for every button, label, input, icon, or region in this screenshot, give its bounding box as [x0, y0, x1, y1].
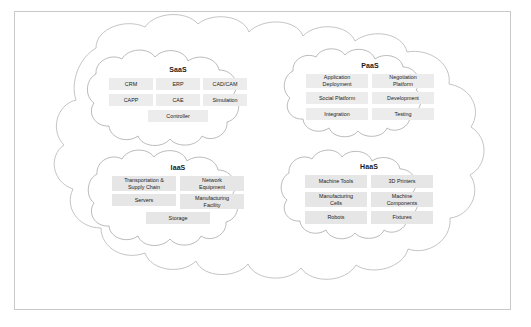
item-machine-components[interactable]: Machine Components	[371, 192, 433, 207]
item-robots[interactable]: Robots	[305, 211, 367, 224]
item-testing[interactable]: Testing	[372, 108, 434, 120]
group-haas-row-3: Robots Fixtures	[299, 211, 439, 228]
item-fixtures[interactable]: Fixtures	[371, 211, 433, 224]
group-iaas-row-3: Storage	[107, 212, 249, 227]
group-saas-row-3: Controller	[107, 110, 249, 126]
item-application-deployment[interactable]: Application Deployment	[306, 74, 368, 88]
group-haas-row-1: Machine Tools 3D Printers	[299, 175, 439, 192]
group-paas-row-3: Integration Testing	[303, 108, 437, 124]
group-paas-row-1: Application Deployment Negotiation Platf…	[303, 74, 437, 92]
group-paas: PaaS Application Deployment Negotiation …	[303, 62, 437, 124]
item-network-equipment[interactable]: Network Equipment	[180, 176, 244, 191]
item-capp[interactable]: CAPP	[109, 94, 153, 106]
figure-root: SaaS CRM ERP CAD/CAM CAPP CAE Simulation…	[0, 0, 531, 327]
group-saas: SaaS CRM ERP CAD/CAM CAPP CAE Simulation…	[107, 66, 249, 126]
group-saas-title: SaaS	[107, 66, 249, 73]
item-negotiation-platform[interactable]: Negotiation Platform	[372, 74, 434, 88]
page-border-frame	[14, 11, 511, 310]
group-iaas-title: IaaS	[107, 164, 249, 171]
group-saas-row-2: CAPP CAE Simulation	[107, 94, 249, 110]
item-transportation-supply-chain[interactable]: Transportation & Supply Chain	[112, 176, 176, 191]
group-haas-title: HaaS	[299, 163, 439, 170]
item-crm[interactable]: CRM	[109, 78, 153, 90]
group-paas-row-2: Social Platform Development	[303, 92, 437, 108]
group-haas-row-2: Manufacturing Cells Machine Components	[299, 192, 439, 211]
group-paas-title: PaaS	[303, 62, 437, 69]
item-controller[interactable]: Controller	[148, 110, 208, 122]
group-haas: HaaS Machine Tools 3D Printers Manufactu…	[299, 163, 439, 228]
group-iaas: IaaS Transportation & Supply Chain Netwo…	[107, 164, 249, 227]
item-servers[interactable]: Servers	[112, 194, 176, 206]
item-cae[interactable]: CAE	[156, 94, 200, 106]
group-iaas-row-1: Transportation & Supply Chain Network Eq…	[107, 176, 249, 194]
item-erp[interactable]: ERP	[156, 78, 200, 90]
item-social-platform[interactable]: Social Platform	[306, 92, 368, 104]
item-cad-cam[interactable]: CAD/CAM	[203, 78, 247, 90]
item-integration[interactable]: Integration	[306, 108, 368, 120]
item-3d-printers[interactable]: 3D Printers	[371, 175, 433, 188]
item-storage[interactable]: Storage	[146, 212, 210, 224]
item-manufacturing-cells[interactable]: Manufacturing Cells	[305, 192, 367, 207]
group-iaas-row-2: Servers Manufacturing Facility	[107, 194, 249, 212]
item-manufacturing-facility[interactable]: Manufacturing Facility	[180, 194, 244, 209]
item-simulation[interactable]: Simulation	[203, 94, 247, 106]
item-machine-tools[interactable]: Machine Tools	[305, 175, 367, 188]
item-development[interactable]: Development	[372, 92, 434, 104]
group-saas-row-1: CRM ERP CAD/CAM	[107, 78, 249, 94]
